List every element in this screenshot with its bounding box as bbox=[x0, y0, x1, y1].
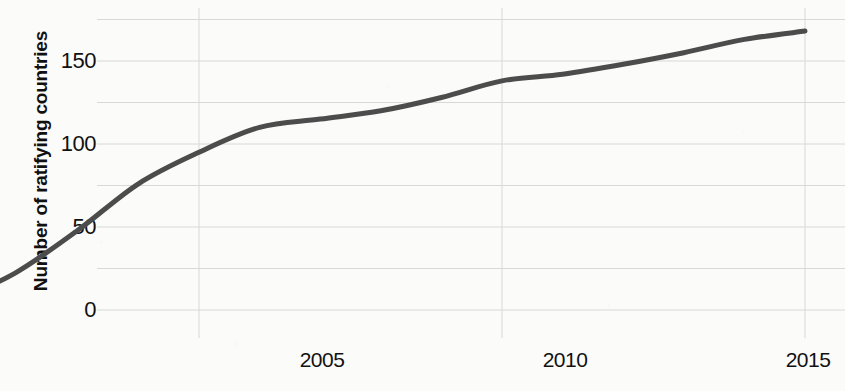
data-series-line bbox=[0, 31, 805, 302]
plot-area bbox=[0, 0, 845, 391]
horizontal-gridlines bbox=[97, 20, 845, 311]
vertical-gridlines bbox=[0, 8, 805, 338]
line-chart: Number of ratifying countries 150 100 50… bbox=[0, 0, 845, 391]
